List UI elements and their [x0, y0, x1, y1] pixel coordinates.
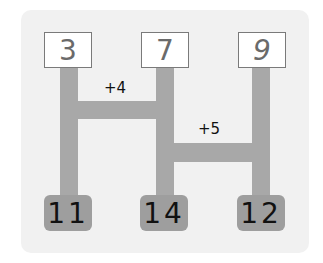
ladder-column-2 — [156, 67, 174, 197]
ladder-rung-1 — [78, 101, 156, 119]
ladder-column-3 — [252, 67, 270, 197]
operation-label-1: +4 — [104, 79, 126, 97]
operation-label-2: +5 — [198, 120, 220, 138]
bottom-number-1: 11 — [44, 195, 92, 231]
bottom-number-2: 14 — [140, 195, 188, 231]
ladder-rung-2 — [174, 143, 252, 162]
bottom-number-3: 12 — [237, 195, 285, 231]
top-number-3: 9 — [238, 32, 286, 68]
top-number-1: 3 — [44, 32, 92, 68]
top-number-2: 7 — [141, 32, 189, 68]
ladder-column-1 — [60, 67, 78, 197]
